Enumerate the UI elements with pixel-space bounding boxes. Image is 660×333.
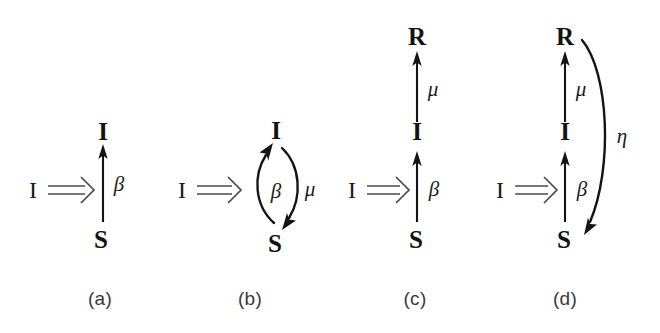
panel-b-node-i: I [271, 117, 281, 144]
panel-a-rate-beta: β [113, 172, 125, 196]
panel-d-rate-mu: μ [575, 77, 587, 101]
panel-c-double-arrow-icon [367, 177, 409, 203]
panel-c-edge-i-to-r [412, 51, 421, 122]
panel-b-edge-i-to-s [282, 148, 298, 230]
panel-d-node-s: S [557, 226, 571, 253]
panel-c-source-label: I [348, 177, 356, 203]
panel-a-double-arrow-icon [48, 177, 94, 203]
panel-d-edge-r-to-s [582, 40, 605, 235]
caption-panel-a: (a) [55, 288, 145, 310]
panel-c-sir-model: I β μ R I S [330, 0, 485, 333]
panel-d-edge-s-to-i [560, 151, 569, 222]
panel-c-node-i: I [412, 118, 422, 145]
panel-d-diagram: I β μ η [485, 0, 660, 333]
panel-c-diagram: I β μ R I S [330, 0, 485, 333]
panel-d-node-i: I [560, 118, 570, 145]
panel-b-node-s: S [268, 230, 282, 257]
panel-d-rate-beta: β [576, 177, 588, 201]
panel-a-source-label: I [29, 177, 37, 203]
panel-d-node-r: R [556, 23, 575, 50]
panel-a-node-i: I [98, 118, 108, 145]
panel-d-edge-i-to-r [560, 51, 569, 122]
panel-a-diagram: I β I S [0, 0, 170, 333]
panel-b-rate-mu: μ [304, 177, 316, 201]
panel-a-edge-s-to-i [98, 144, 107, 222]
panel-c-node-s: S [409, 226, 423, 253]
panel-d-rate-eta: η [617, 124, 627, 148]
panel-c-edge-s-to-i [412, 151, 421, 222]
panel-b-source-label: I [178, 177, 186, 203]
caption-panel-d: (d) [520, 288, 610, 310]
panel-d-double-arrow-icon [515, 177, 557, 203]
caption-panel-b: (b) [205, 288, 295, 310]
caption-panel-c: (c) [370, 288, 460, 310]
figure-root: I β I S I [0, 0, 660, 333]
panel-d-sirs-model: I β μ η [485, 0, 660, 333]
panel-a-si-model: I β I S [0, 0, 170, 333]
panel-c-node-r: R [408, 23, 427, 50]
panel-b-sis-model: I β μ I S [170, 0, 330, 333]
panel-a-node-s: S [94, 226, 108, 253]
panel-c-rate-mu: μ [427, 77, 439, 101]
panel-b-diagram: I β μ I S [170, 0, 330, 333]
panel-c-rate-beta: β [428, 177, 440, 201]
panel-b-rate-beta: β [270, 179, 282, 203]
panel-b-double-arrow-icon [197, 177, 241, 203]
panel-d-source-label: I [496, 177, 504, 203]
